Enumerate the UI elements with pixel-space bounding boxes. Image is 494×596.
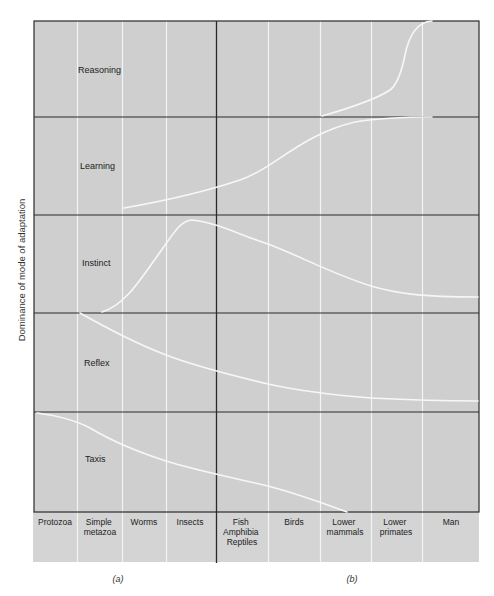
row-label-learning: Learning <box>80 161 115 171</box>
adaptation-chart: Reasoning Learning Instinct Reflex Taxis… <box>0 0 494 596</box>
row-label-taxis: Taxis <box>85 454 106 464</box>
category-insects: Insects <box>177 517 204 527</box>
category-birds: Birds <box>284 517 303 527</box>
row-label-instinct: Instinct <box>82 258 111 268</box>
y-axis-label: Dominance of mode of adaptation <box>16 199 27 342</box>
category-simple-metazoa: Simple metazoa <box>84 517 117 537</box>
category-man: Man <box>443 517 460 527</box>
category-worms: Worms <box>131 517 158 527</box>
category-lower-primates: Lower primates <box>380 517 413 537</box>
panel-label-a: (a) <box>113 574 124 584</box>
panel-label-b: (b) <box>347 574 358 584</box>
category-protozoa: Protozoa <box>38 517 72 527</box>
row-label-reflex: Reflex <box>84 358 110 368</box>
row-label-reasoning: Reasoning <box>78 65 121 75</box>
